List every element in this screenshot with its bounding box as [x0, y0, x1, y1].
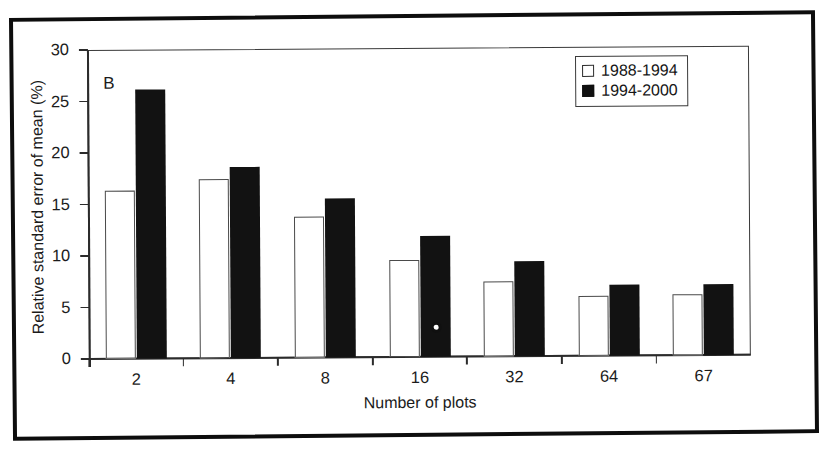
x-axis-tick-label: 67 [669, 366, 739, 385]
legend: 1988-1994 1994-2000 [575, 55, 688, 107]
bar-1988-1994-16 [389, 260, 420, 357]
legend-label: 1988-1994 [601, 61, 678, 79]
x-axis-tick-label: 8 [290, 368, 360, 387]
panel-label: B [103, 74, 114, 94]
legend-swatch-filled-square [582, 85, 594, 97]
x-axis-tick [466, 357, 468, 365]
bar-1988-1994-67 [673, 294, 703, 355]
bar-1994-2000-8 [325, 199, 356, 358]
legend-item: 1988-1994 [582, 60, 678, 81]
bar-1994-2000-2 [135, 90, 167, 359]
bar-1988-1994-64 [578, 296, 608, 356]
x-axis-tick [561, 356, 563, 364]
bar-1988-1994-8 [294, 216, 325, 357]
scan-artifact-ring [430, 322, 441, 333]
bar-1988-1994-4 [199, 179, 230, 358]
bar-1994-2000-32 [514, 261, 545, 356]
x-axis-tick-label: 4 [196, 369, 266, 388]
bar-1994-2000-64 [609, 284, 639, 355]
legend-item: 1994-2000 [582, 80, 678, 101]
x-axis-tick [372, 357, 374, 365]
x-axis-tick-label: 64 [574, 367, 644, 386]
legend-label: 1994-2000 [601, 81, 678, 99]
bar-1994-2000-67 [704, 284, 734, 355]
x-axis-tick-label: 2 [101, 369, 171, 388]
x-axis-tick [89, 359, 91, 367]
figure-canvas: 051015202530 Relative standard error of … [0, 0, 829, 451]
x-axis-tick [655, 355, 657, 363]
bar-1988-1994-2 [105, 191, 136, 359]
legend-swatch-open-square [582, 65, 594, 77]
bar-1994-2000-16 [420, 236, 451, 357]
x-axis-tick-label: 32 [479, 367, 549, 386]
x-axis-tick [277, 358, 279, 366]
bar-1994-2000-4 [230, 167, 261, 358]
bar-1988-1994-32 [483, 281, 513, 356]
bar-chart: 051015202530 Relative standard error of … [0, 0, 829, 451]
x-axis-tick [183, 358, 185, 366]
x-axis-tick-label: 16 [385, 368, 455, 387]
